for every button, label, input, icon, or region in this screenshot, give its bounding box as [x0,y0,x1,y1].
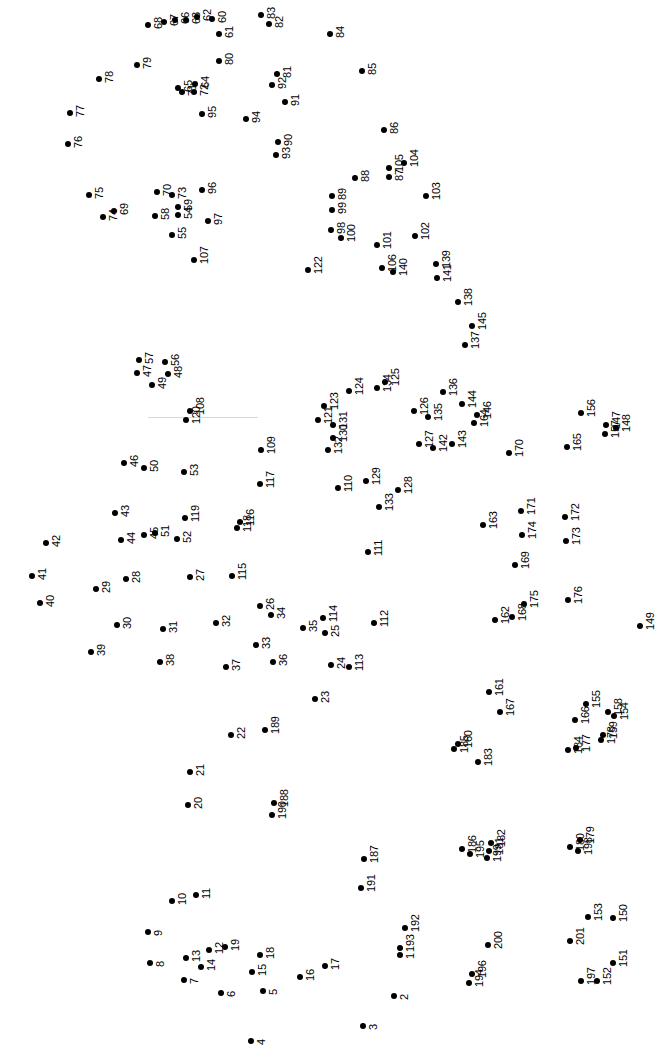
dot-marker [191,257,197,263]
dot-label: 83 [266,7,277,19]
dot-label: 35 [308,620,319,632]
dot-label: 27 [195,569,206,581]
dot-marker [338,235,344,241]
dot-marker [181,977,187,983]
dot-label: 145 [477,312,488,330]
dot-label: 175 [529,590,540,608]
dot-label: 37 [231,659,242,671]
dot-label: 97 [213,213,224,225]
dot-marker [484,855,490,861]
dot-label: 31 [168,621,179,633]
dot-marker [160,626,166,632]
dot-marker [175,212,181,218]
dot-marker [390,269,396,275]
dot-label: 138 [463,288,474,306]
dot-label: 85 [367,63,378,75]
dot-marker [269,812,275,818]
dot-label: 55 [177,227,188,239]
dot-label: 69 [119,203,130,215]
dot-label: 109 [266,436,277,454]
dot-marker [509,614,515,620]
dot-marker [205,218,211,224]
dot-label: 110 [343,475,354,492]
dot-label: 7 [189,978,200,984]
dot-label: 197 [586,967,597,985]
dot-marker [575,848,581,854]
puzzle-canvas: 1234567891011121314151617181920212223242… [0,0,658,1048]
dot-label: 193 [405,934,416,952]
dot-marker [257,481,263,487]
dot-label: 161 [494,678,505,696]
dot-label: 13 [191,950,202,962]
dot-marker [112,510,118,516]
dot-label: 169 [520,551,531,569]
dot-marker [602,431,608,437]
dot-label: 51 [160,525,171,537]
dot-label: 149 [645,612,656,630]
dot-label: 172 [570,503,581,521]
dot-marker [402,925,408,931]
dot-label: 78 [104,71,115,83]
dot-label: 134 [382,374,393,392]
dot-label: 39 [96,644,107,656]
dot-label: 48 [173,366,184,378]
dot-label: 50 [149,460,160,472]
dot-label: 9 [153,930,164,936]
dot-marker [564,444,570,450]
dot-marker [315,417,321,423]
dot-marker [37,600,43,606]
dot-label: 89 [337,188,348,200]
dot-marker [411,408,417,414]
dot-label: 84 [335,26,346,38]
dot-marker [157,659,163,665]
dot-label: 49 [157,377,168,389]
dot-label: 113 [354,654,365,671]
dot-marker [459,401,465,407]
dot-label: 101 [382,231,393,249]
dot-label: 136 [448,378,459,396]
dot-label: 33 [261,637,272,649]
dot-marker [567,844,573,850]
dot-marker [397,952,403,958]
dot-marker [329,193,335,199]
dot-marker [183,955,189,961]
dot-marker [249,969,255,975]
dot-marker [270,659,276,665]
dot-marker [273,152,279,158]
dot-marker [228,732,234,738]
dot-label: 52 [182,531,193,543]
dot-marker [182,515,188,521]
dot-label: 152 [602,967,613,985]
dot-label: 22 [236,727,247,739]
dot-label: 111 [373,540,384,556]
dot-marker [455,299,461,305]
dot-marker [260,988,266,994]
dot-label: 74 [108,209,119,221]
dot-label: 199 [492,844,503,862]
dot-label: 72 [199,84,210,96]
dot-marker [234,525,240,531]
dot-marker [243,116,249,122]
dot-label: 140 [398,258,409,276]
dot-marker [449,441,455,447]
dot-marker [497,709,503,715]
dot-marker [565,747,571,753]
dot-label: 176 [573,586,584,604]
dot-marker [121,460,127,466]
dot-marker [330,422,336,428]
dot-marker [169,232,175,238]
dot-marker [266,21,272,27]
dot-marker [322,963,328,969]
dot-label: 164 [479,409,490,427]
dot-marker [305,267,311,273]
dot-label: 150 [618,904,629,922]
dot-label: 173 [571,527,582,545]
dot-marker [312,696,318,702]
dot-marker [358,885,364,891]
dot-label: 190 [277,801,288,819]
dot-marker [297,974,303,980]
dot-marker [480,522,486,528]
dot-marker [518,508,524,514]
dot-label: 60 [217,11,228,23]
dot-label: 124 [354,377,365,395]
